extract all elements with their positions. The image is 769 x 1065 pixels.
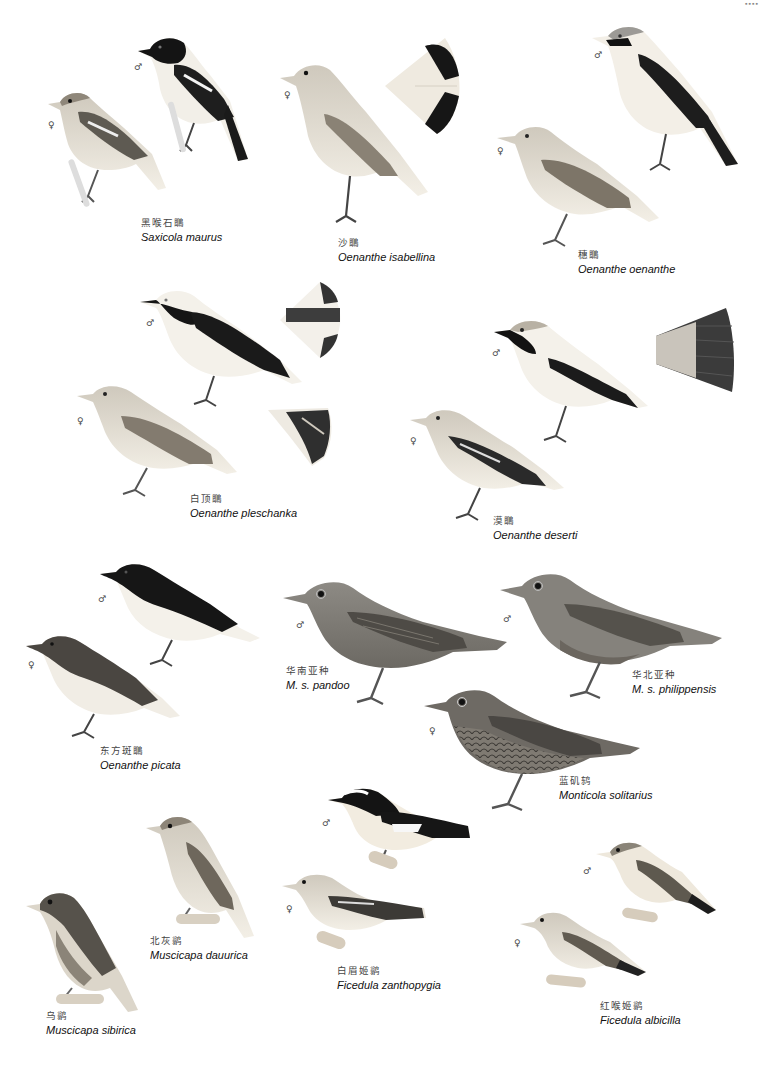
- tail-fan-oenanthe-pleschanka-male: [280, 280, 342, 358]
- caption-chinese-name: 蓝矶鸫: [559, 774, 653, 788]
- field-guide-plate: ▪▪▪▪ ♀ ♂ 黑喉石䳭 Saxicola maurus: [0, 0, 769, 1065]
- sex-symbol-female: ♀: [514, 938, 521, 948]
- caption-oenanthe-isabellina: 沙䳭 Oenanthe isabellina: [338, 236, 435, 264]
- sex-symbol-male: ♂: [583, 866, 591, 876]
- caption-oenanthe-oenanthe: 穗䳭 Oenanthe oenanthe: [578, 248, 675, 276]
- caption-monticola-philippensis: 华北亚种 M. s. philippensis: [632, 668, 716, 696]
- caption-chinese-name: 乌鹟: [46, 1009, 136, 1023]
- caption-latin-name: M. s. philippensis: [632, 682, 716, 696]
- sex-symbol-female: ♀: [497, 146, 504, 156]
- caption-latin-name: Ficedula albicilla: [600, 1013, 681, 1027]
- caption-muscicapa-dauurica: 北灰鹟 Muscicapa dauurica: [150, 934, 248, 962]
- caption-chinese-name: 穗䳭: [578, 248, 675, 262]
- caption-monticola-pandoo: 华南亚种 M. s. pandoo: [286, 664, 350, 692]
- sex-symbol-male: ♂: [322, 818, 330, 828]
- sex-symbol-male: ♂: [134, 62, 142, 72]
- sex-symbol-female: ♀: [429, 726, 436, 736]
- bird-oenanthe-picata-female: [26, 634, 182, 738]
- bird-muscicapa-dauurica: [146, 814, 256, 940]
- caption-chinese-name: 白顶䳭: [190, 492, 297, 506]
- caption-chinese-name: 黑喉石䳭: [141, 216, 222, 230]
- caption-latin-name: Oenanthe picata: [100, 758, 181, 772]
- tail-fan-oenanthe-pleschanka-female: [268, 404, 334, 468]
- caption-latin-name: Oenanthe oenanthe: [578, 262, 675, 276]
- caption-oenanthe-pleschanka: 白顶䳭 Oenanthe pleschanka: [190, 492, 297, 520]
- sex-symbol-female: ♀: [286, 904, 293, 914]
- bird-oenanthe-pleschanka-female: [77, 384, 239, 500]
- caption-latin-name: Saxicola maurus: [141, 230, 222, 244]
- caption-chinese-name: 华南亚种: [286, 664, 350, 678]
- caption-latin-name: Oenanthe deserti: [493, 528, 577, 542]
- sex-symbol-male: ♂: [594, 50, 602, 60]
- caption-chinese-name: 华北亚种: [632, 668, 716, 682]
- caption-latin-name: Muscicapa dauurica: [150, 948, 248, 962]
- caption-chinese-name: 红喉姬鹟: [600, 999, 681, 1013]
- caption-chinese-name: 白眉姬鹟: [337, 964, 441, 978]
- sex-symbol-female: ♀: [284, 90, 291, 100]
- bird-ficedula-zanthopygia-female: [282, 872, 428, 956]
- page-header-mark: ▪▪▪▪: [745, 0, 759, 7]
- caption-latin-name: Muscicapa sibirica: [46, 1023, 136, 1037]
- caption-chinese-name: 漠䳭: [493, 514, 577, 528]
- caption-ficedula-albicilla: 红喉姬鹟 Ficedula albicilla: [600, 999, 681, 1027]
- bird-ficedula-zanthopygia-male: [328, 786, 472, 876]
- caption-latin-name: Ficedula zanthopygia: [337, 978, 441, 992]
- caption-muscicapa-sibirica: 乌鹟 Muscicapa sibirica: [46, 1009, 136, 1037]
- caption-latin-name: Monticola solitarius: [559, 788, 653, 802]
- bird-muscicapa-sibirica: [26, 890, 140, 1016]
- sex-symbol-male: ♂: [296, 620, 304, 630]
- sex-symbol-female: ♀: [28, 660, 35, 670]
- caption-oenanthe-deserti: 漠䳭 Oenanthe deserti: [493, 514, 577, 542]
- sex-symbol-male: ♂: [503, 614, 511, 624]
- bird-oenanthe-oenanthe-female: [497, 124, 661, 248]
- caption-chinese-name: 东方斑䳭: [100, 744, 181, 758]
- caption-chinese-name: 北灰鹟: [150, 934, 248, 948]
- sex-symbol-male: ♂: [98, 594, 106, 604]
- sex-symbol-female: ♀: [410, 436, 417, 446]
- sex-symbol-male: ♂: [146, 318, 154, 328]
- tail-fan-oenanthe-deserti: [656, 306, 736, 394]
- bird-saxicola-maurus-male: [138, 35, 253, 160]
- caption-ficedula-zanthopygia: 白眉姬鹟 Ficedula zanthopygia: [337, 964, 441, 992]
- sex-symbol-female: ♀: [77, 416, 84, 426]
- caption-oenanthe-picata: 东方斑䳭 Oenanthe picata: [100, 744, 181, 772]
- caption-latin-name: Oenanthe isabellina: [338, 250, 435, 264]
- caption-latin-name: M. s. pandoo: [286, 678, 350, 692]
- caption-monticola-solitarius: 蓝矶鸫 Monticola solitarius: [559, 774, 653, 802]
- caption-latin-name: Oenanthe pleschanka: [190, 506, 297, 520]
- bird-ficedula-albicilla-female: [520, 910, 648, 996]
- caption-chinese-name: 沙䳭: [338, 236, 435, 250]
- bird-oenanthe-deserti-female: [410, 408, 566, 520]
- sex-symbol-male: ♂: [492, 348, 500, 358]
- tail-fan-oenanthe-isabellina: [385, 36, 460, 136]
- caption-saxicola-maurus: 黑喉石䳭 Saxicola maurus: [141, 216, 222, 244]
- sex-symbol-female: ♀: [48, 120, 55, 130]
